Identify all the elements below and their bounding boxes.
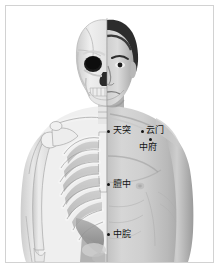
- point-label-tiantu: 天突: [113, 125, 132, 135]
- point-marker-zhongwan: [107, 233, 110, 236]
- acupuncture-chart: 天突 云门 中府 膻中 中脘: [0, 0, 220, 266]
- point-marker-tiantu: [107, 130, 110, 133]
- anatomical-illustration: [6, 6, 213, 262]
- point-label-yunmen: 云门: [146, 125, 165, 135]
- point-marker-zhongfu: [149, 138, 152, 141]
- point-label-zhongfu: 中府: [139, 142, 158, 152]
- point-label-zhongwan: 中脘: [113, 229, 132, 239]
- point-marker-danzhong: [107, 183, 110, 186]
- point-label-danzhong: 膻中: [113, 179, 132, 189]
- point-marker-yunmen: [141, 130, 144, 133]
- split-body-figure: [6, 6, 213, 262]
